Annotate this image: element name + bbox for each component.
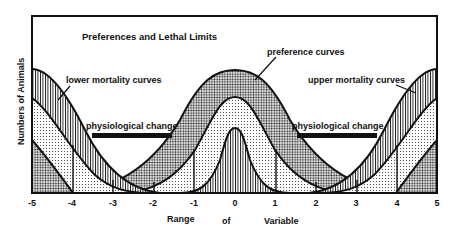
x-label-of: of bbox=[222, 216, 231, 226]
physiological-change-left-bar bbox=[92, 133, 172, 138]
y-axis-label: Numbers of Animals bbox=[16, 58, 26, 145]
x-tick: -3 bbox=[109, 198, 117, 208]
physiological-change-right-bar bbox=[297, 133, 377, 138]
chart-title: Preferences and Lethal Limits bbox=[82, 31, 217, 42]
x-tick: -4 bbox=[68, 198, 76, 208]
x-tick: 1 bbox=[272, 198, 277, 208]
preferences-lethal-limits-diagram: Preferences and Lethal Limits lower mort… bbox=[0, 0, 455, 235]
x-label-variable: Variable bbox=[264, 216, 299, 226]
x-tick: 0 bbox=[232, 198, 237, 208]
preference-label: preference curves bbox=[267, 47, 345, 57]
x-axis-ticks: -5 -4 -3 -2 -1 0 1 2 3 4 5 bbox=[28, 198, 440, 208]
x-tick: -1 bbox=[190, 198, 198, 208]
physiological-change-right-label: physiological change bbox=[292, 121, 384, 131]
lower-mortality-label: lower mortality curves bbox=[66, 75, 162, 85]
x-label-range: Range bbox=[167, 214, 195, 224]
x-tick: -2 bbox=[149, 198, 157, 208]
upper-mortality-label: upper mortality curves bbox=[308, 75, 405, 85]
x-tick: 5 bbox=[434, 198, 439, 208]
x-tick: 4 bbox=[394, 198, 399, 208]
x-tick: 3 bbox=[353, 198, 358, 208]
physiological-change-left-label: physiological change bbox=[86, 121, 178, 131]
x-tick: 2 bbox=[313, 198, 318, 208]
x-tick: -5 bbox=[28, 198, 36, 208]
